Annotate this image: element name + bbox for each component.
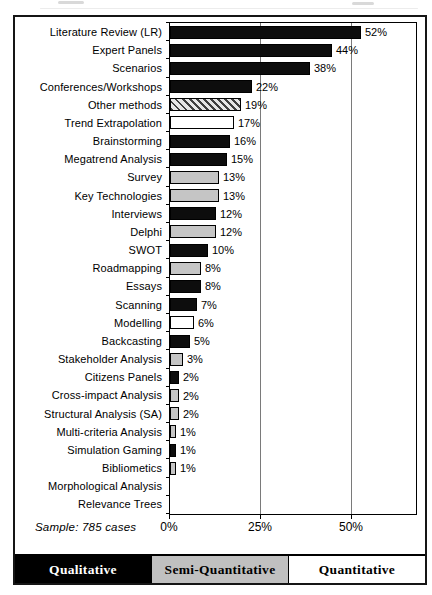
bar [170,262,201,275]
category-label: Simulation Gaming [15,441,164,459]
value-label: 2% [183,390,199,402]
value-label: 1% [180,444,196,456]
bar-row: 5% [170,332,430,350]
value-label: 1% [180,426,196,438]
value-label: 38% [314,62,336,74]
category-label: Morphological Analysis [15,477,164,495]
bar [170,444,176,457]
bar-row: 22% [170,78,430,96]
bar [170,244,208,257]
bar [170,207,216,220]
legend-item: Qualitative [15,556,151,583]
bar [170,280,201,293]
category-label: Conferences/Workshops [15,78,164,96]
category-label: Cross-impact Analysis [15,386,164,404]
category-label: Citizens Panels [15,368,164,386]
bar [170,171,219,184]
bar [170,98,241,111]
value-label: 16% [234,135,256,147]
bar [170,335,190,348]
bar-row: 3% [170,350,430,368]
value-label: 6% [198,317,214,329]
x-axis-tick-label: 50% [329,520,373,534]
bar-row: 15% [170,150,430,168]
value-label: 2% [183,408,199,420]
legend-label: Qualitative [49,562,117,578]
x-axis-tick-label: 0% [147,520,191,534]
value-label: 15% [231,153,253,165]
bar-row: 12% [170,205,430,223]
category-label: Trend Extrapolation [15,114,164,132]
bar [170,425,176,438]
category-label: Relevance Trees [15,495,164,513]
category-label: Megatrend Analysis [15,150,164,168]
bar-row: 17% [170,114,430,132]
bar-row: 13% [170,168,430,186]
bar-row: 1% [170,423,430,441]
legend-label: Quantitative [319,562,395,578]
value-label: 52% [365,26,387,38]
bar [170,389,179,402]
category-label: Interviews [15,205,164,223]
bar-row: 6% [170,314,430,332]
x-axis-tick [260,515,261,519]
value-label: 1% [180,462,196,474]
x-axis-tick [351,515,352,519]
bar [170,462,176,475]
category-label: Scanning [15,296,164,314]
value-label: 17% [238,117,260,129]
value-label: 12% [220,226,242,238]
bar [170,80,252,93]
bar [170,316,194,329]
bar-row: 13% [170,187,430,205]
value-label: 12% [220,208,242,220]
value-label: 3% [187,353,203,365]
value-label: 13% [223,171,245,183]
bar [170,407,179,420]
caption-fragment [58,1,84,4]
bar-row: 2% [170,386,430,404]
bar-row: 16% [170,132,430,150]
legend-label: Semi-Quantitative [165,562,276,578]
category-label: Delphi [15,223,164,241]
value-label: 19% [245,99,267,111]
category-labels: Literature Review (LR)Expert PanelsScena… [15,23,164,514]
value-label: 2% [183,371,199,383]
legend-item: Quantitative [288,556,425,583]
x-axis-tick-label: 25% [238,520,282,534]
bar-row: 2% [170,405,430,423]
bar [170,225,216,238]
category-label: Survey [15,168,164,186]
value-label: 44% [336,44,358,56]
cropped-caption-remnant [0,0,432,10]
legend-item: Semi-Quantitative [151,556,288,583]
category-label: Roadmapping [15,259,164,277]
category-label: Stakeholder Analysis [15,350,164,368]
bar-row [170,477,430,495]
bar-row: 10% [170,241,430,259]
category-label: Modelling [15,314,164,332]
bar [170,153,227,166]
value-label: 5% [194,335,210,347]
value-label: 22% [256,81,278,93]
bar-row [170,495,430,513]
bar [170,371,179,384]
value-label: 13% [223,190,245,202]
category-label: Literature Review (LR) [15,23,164,41]
caption-fragment [352,2,374,5]
bar-row: 7% [170,296,430,314]
bar-row: 38% [170,59,430,77]
bar [170,26,361,39]
bar-row: 1% [170,459,430,477]
chart-frame: Literature Review (LR)Expert PanelsScena… [13,15,427,585]
category-label: Essays [15,277,164,295]
bar [170,353,183,366]
legend-band: Qualitative Semi-Quantitative Quantitati… [15,554,425,583]
bar-row: 44% [170,41,430,59]
bar-row: 8% [170,259,430,277]
bar [170,44,332,57]
value-label: 10% [212,244,234,256]
bar [170,298,197,311]
category-label: Backcasting [15,332,164,350]
category-label: SWOT [15,241,164,259]
